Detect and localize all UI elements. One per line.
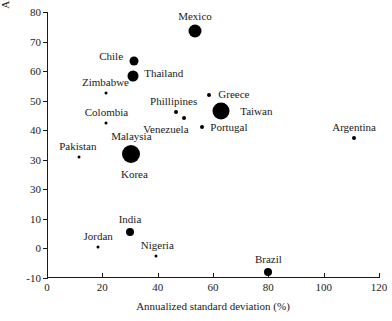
x-tick-label: 60 [193,282,233,293]
y-tick-label: 30 [7,155,41,166]
data-point-label: Nigeria [141,239,174,250]
y-tick-mark [43,42,48,43]
data-point-label: Chile [99,50,123,61]
data-point-label: Argentina [332,121,376,132]
y-tick-mark [43,130,48,131]
y-tick-mark [43,101,48,102]
y-tick-label: 70 [7,37,41,48]
y-tick-mark [43,219,48,220]
data-point[interactable] [213,103,230,120]
scatter-chart-figure: 80706050403030100-10 020406080100120 Mex… [0,0,392,321]
data-point-label: India [119,214,142,225]
y-tick-mark [43,12,48,13]
data-point-label: Korea [121,168,148,179]
y-tick-mark [43,71,48,72]
data-point[interactable] [200,125,204,129]
plot-area: 80706050403030100-10 020406080100120 Mex… [47,12,379,278]
data-point-label: Zimbabwe [82,77,129,88]
y-tick-mark [43,278,48,279]
x-axis-title: Annualized standard deviation (%) [47,300,379,312]
data-point[interactable] [105,121,108,124]
data-point[interactable] [105,92,108,95]
data-point[interactable] [189,25,202,38]
data-point-label: Pakistan [59,140,96,151]
x-tick-mark [213,273,214,278]
data-point[interactable] [155,254,158,257]
data-point-label: Brazil [255,254,282,265]
y-tick-label: 60 [7,66,41,77]
x-tick-label: 120 [359,282,392,293]
data-point-label: Greece [218,88,249,99]
y-tick-mark [43,160,48,161]
x-tick-label: 80 [248,282,288,293]
x-tick-label: 100 [304,282,344,293]
data-point[interactable] [352,136,356,140]
y-tick-label: 80 [7,7,41,18]
y-axis-line [47,12,48,278]
data-point[interactable] [77,155,80,158]
data-point-label: Colombia [85,106,128,117]
y-axis-title: Annualized mean return (%) [0,0,11,46]
y-tick-label: 30 [7,184,41,195]
y-tick-label: 0 [7,243,41,254]
y-tick-label: 10 [7,214,41,225]
data-point[interactable] [182,116,186,120]
x-tick-label: 20 [82,282,122,293]
data-point-label: Thailand [144,67,183,78]
y-tick-label: 50 [7,96,41,107]
x-tick-label: 40 [138,282,178,293]
x-tick-label: 0 [27,282,67,293]
y-tick-label: 40 [7,125,41,136]
x-tick-mark [324,273,325,278]
x-tick-mark [379,273,380,278]
y-tick-mark [43,248,48,249]
x-tick-mark [47,273,48,278]
data-point-label: Portugal [210,122,247,133]
x-tick-mark [102,273,103,278]
data-point-label: Phillipines [150,96,197,107]
y-tick-mark [43,189,48,190]
data-point-label: Malaysia [111,130,151,141]
data-point[interactable] [126,228,134,236]
data-point[interactable] [264,268,272,276]
data-point[interactable] [207,93,211,97]
data-point-label: Jordan [84,230,113,241]
data-point[interactable] [122,145,140,163]
x-tick-mark [158,273,159,278]
data-point-label: Mexico [178,11,212,22]
data-point-label: Taiwan [240,106,272,117]
data-point[interactable] [174,110,178,114]
data-point[interactable] [130,56,139,65]
data-point[interactable] [97,245,100,248]
